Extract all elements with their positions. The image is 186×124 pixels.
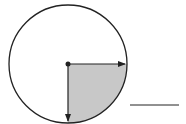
shaded-sector <box>68 64 127 123</box>
center-point <box>66 62 71 67</box>
diagram-canvas <box>0 0 186 124</box>
